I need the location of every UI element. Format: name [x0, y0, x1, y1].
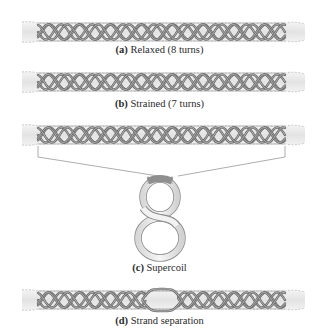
caption-text: Supercoil: [147, 262, 187, 273]
strained-helix: [22, 72, 305, 93]
caption-text: Strand separation: [131, 315, 204, 326]
supercoil-source-helix: [22, 125, 305, 146]
caption-strained: (b) Strained (7 turns): [0, 98, 319, 109]
strand-separation-helix: [22, 289, 305, 311]
supercoil-figure-eight: [138, 176, 182, 258]
caption-letter: (d): [115, 315, 128, 326]
caption-letter: (a): [116, 44, 128, 55]
caption-letter: (c): [132, 262, 144, 273]
caption-text: Strained (7 turns): [130, 98, 204, 109]
caption-strand-separation: (d) Strand separation: [0, 315, 319, 326]
caption-supercoil: (c) Supercoil: [0, 262, 319, 273]
caption-letter: (b): [115, 98, 128, 109]
zoom-bracket: [38, 146, 285, 176]
caption-relaxed: (a) Relaxed (8 turns): [0, 44, 319, 55]
caption-text: Relaxed (8 turns): [130, 44, 203, 55]
relaxed-helix: [22, 22, 305, 43]
